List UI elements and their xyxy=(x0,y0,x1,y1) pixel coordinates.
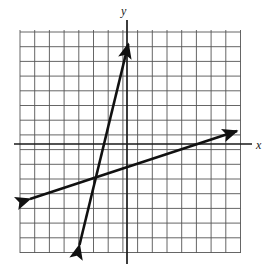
graph-figure: x y xyxy=(0,0,277,272)
x-axis-label: x xyxy=(256,139,261,151)
coordinate-graph xyxy=(0,0,277,272)
y-axis-label: y xyxy=(121,5,126,17)
shallow-line xyxy=(30,131,237,199)
